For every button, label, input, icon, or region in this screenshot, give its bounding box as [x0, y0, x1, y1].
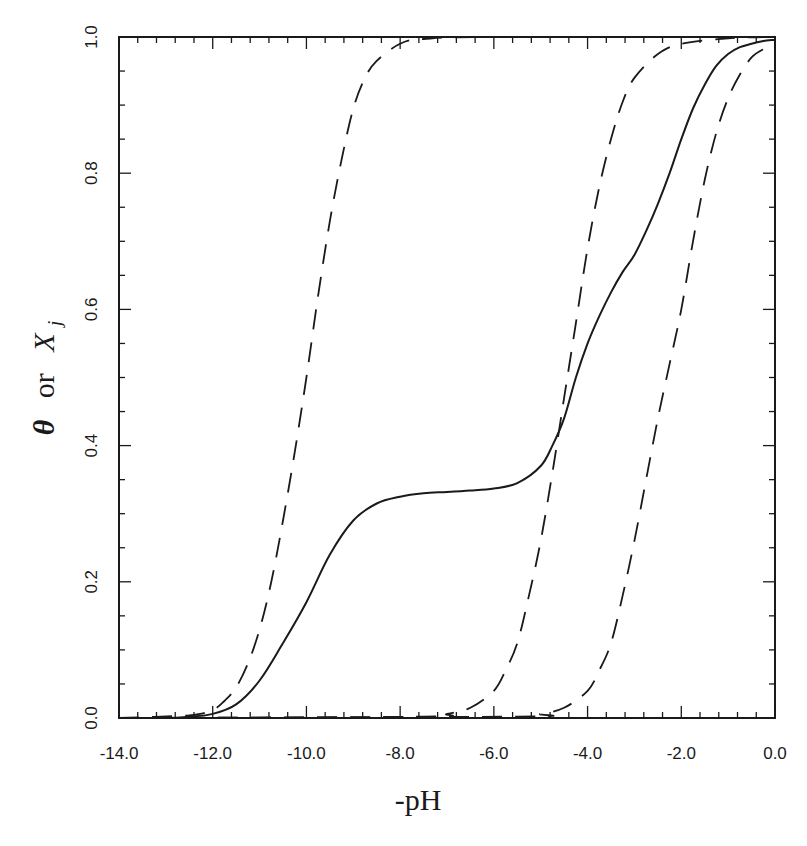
- y-tick-label: 0.6: [82, 298, 101, 322]
- x-tick-label: -2.0: [667, 744, 696, 763]
- x-tick-label: -8.0: [385, 744, 414, 763]
- series-line-4: [119, 45, 775, 718]
- x-axis-ticks: -14.0-12.0-10.0-8.0-6.0-4.0-2.00.0: [100, 37, 787, 763]
- x-tick-label: -14.0: [100, 744, 139, 763]
- y-tick-label: 0.0: [82, 706, 101, 730]
- y-axis-ticks: 0.00.20.40.60.81.0: [82, 25, 775, 730]
- x-tick-label: -6.0: [479, 744, 508, 763]
- titration-chart: -14.0-12.0-10.0-8.0-6.0-4.0-2.00.0 0.00.…: [0, 0, 807, 846]
- series-line-2: [119, 37, 775, 718]
- y-tick-label: 1.0: [82, 25, 101, 49]
- series-line-3: [119, 37, 775, 718]
- series-line-1: [119, 40, 775, 718]
- x-axis-title: -pH: [395, 783, 442, 816]
- plot-frame: [119, 37, 775, 718]
- y-axis-title-x: X: [27, 332, 60, 353]
- y-tick-label: 0.4: [82, 434, 101, 458]
- axes-frame: [119, 37, 775, 718]
- svg-text:θ or X j: θ or X j: [27, 321, 65, 436]
- data-curves: [119, 37, 775, 718]
- y-tick-label: 0.8: [82, 161, 101, 185]
- y-axis-title-theta: θ: [27, 419, 60, 435]
- x-tick-label: -12.0: [193, 744, 232, 763]
- y-axis-title-or: or: [27, 373, 60, 398]
- y-axis-title-sub: j: [44, 321, 65, 329]
- x-tick-label: 0.0: [763, 744, 787, 763]
- x-tick-label: -4.0: [573, 744, 602, 763]
- x-tick-label: -10.0: [287, 744, 326, 763]
- y-tick-label: 0.2: [82, 570, 101, 594]
- y-axis-title: θ or X j: [27, 321, 65, 436]
